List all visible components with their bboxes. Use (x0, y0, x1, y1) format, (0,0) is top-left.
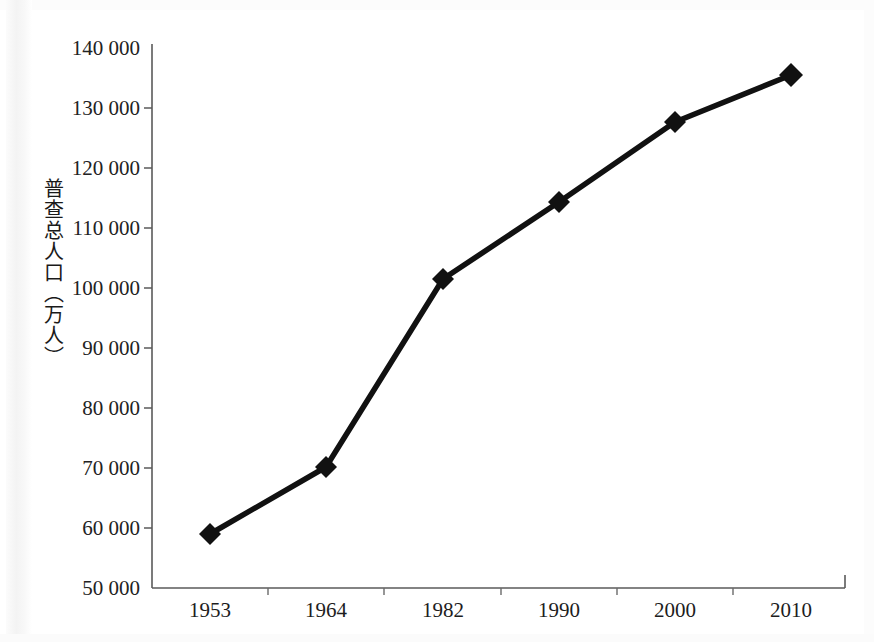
x-axis-ticks (268, 588, 733, 595)
plot-area (0, 0, 874, 642)
chart-page: 普查总人口（万人） 140 000 130 000 120 000 110 00… (0, 0, 874, 642)
y-axis-ticks (144, 108, 152, 528)
series-line (210, 75, 791, 534)
data-point-marker (779, 63, 803, 87)
series-markers (199, 63, 803, 545)
line-chart: 普查总人口（万人） 140 000 130 000 120 000 110 00… (0, 0, 874, 642)
data-point-marker (199, 523, 221, 545)
